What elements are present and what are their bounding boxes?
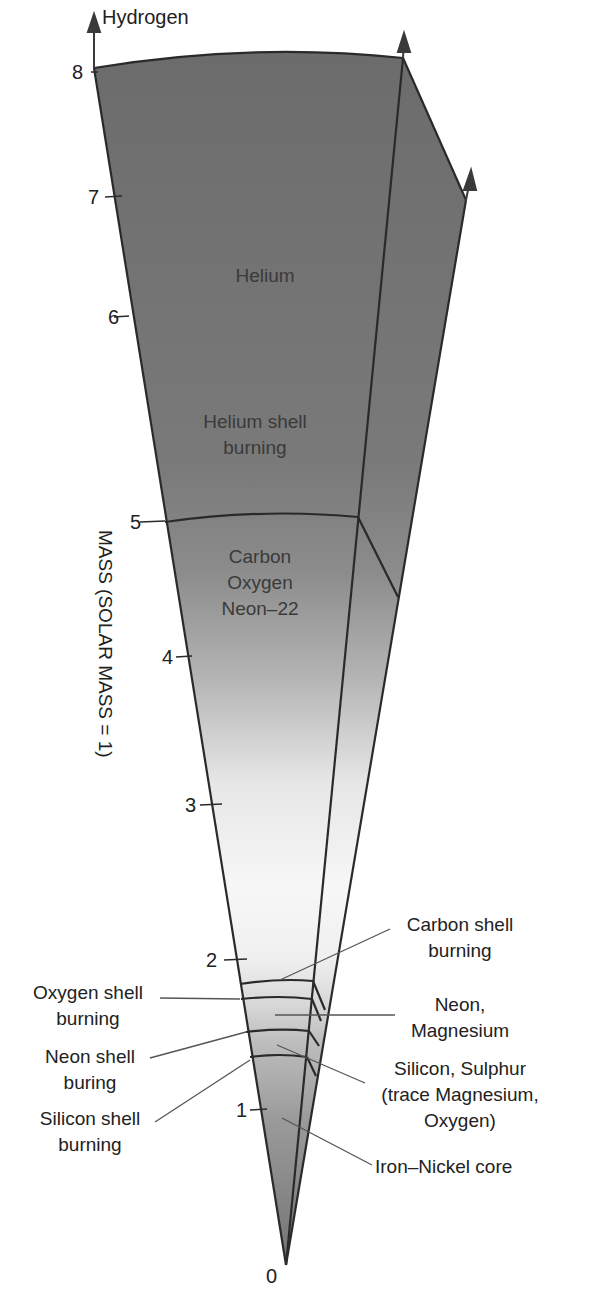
callout-si-s-3: Oxygen) [370, 1110, 550, 1132]
tick-3: 3 [185, 795, 196, 815]
label-neon22: Neon–22 [200, 597, 320, 621]
label-oxygen: Oxygen [200, 571, 320, 595]
tick-0: 0 [266, 1266, 277, 1286]
callout-neon-shell-1: Neon shell [20, 1046, 160, 1068]
label-hydrogen: Hydrogen [102, 6, 189, 28]
tick-8: 8 [72, 62, 83, 82]
callout-silicon-shell-1: Silicon shell [20, 1108, 160, 1130]
callout-neon-shell-2: buring [20, 1072, 160, 1094]
tick-5: 5 [130, 512, 141, 532]
label-helium-shell-2: burning [185, 436, 325, 460]
tick-6: 6 [108, 307, 119, 327]
callout-carbon-shell-2: burning [385, 940, 535, 962]
tick-1: 1 [236, 1100, 247, 1120]
callout-silicon-shell-2: burning [20, 1134, 160, 1156]
callout-neon-mg-2: Magnesium [385, 1020, 535, 1042]
callout-core: Iron–Nickel core [375, 1156, 575, 1178]
callout-carbon-shell-1: Carbon shell [385, 914, 535, 936]
axis-title: MASS (SOLAR MASS = 1) [94, 530, 116, 758]
callout-neon-mg-1: Neon, [385, 994, 535, 1016]
tick-7: 7 [88, 187, 99, 207]
label-helium-shell-1: Helium shell [185, 410, 325, 434]
callout-oxygen-shell-2: burning [18, 1008, 158, 1030]
callout-si-s-2: (trace Magnesium, [360, 1084, 560, 1106]
label-carbon: Carbon [200, 545, 320, 569]
callout-oxygen-shell-1: Oxygen shell [18, 982, 158, 1004]
callout-si-s-1: Silicon, Sulphur [370, 1058, 550, 1080]
tick-4: 4 [162, 647, 173, 667]
label-helium: Helium [215, 264, 315, 288]
tick-2: 2 [206, 950, 217, 970]
